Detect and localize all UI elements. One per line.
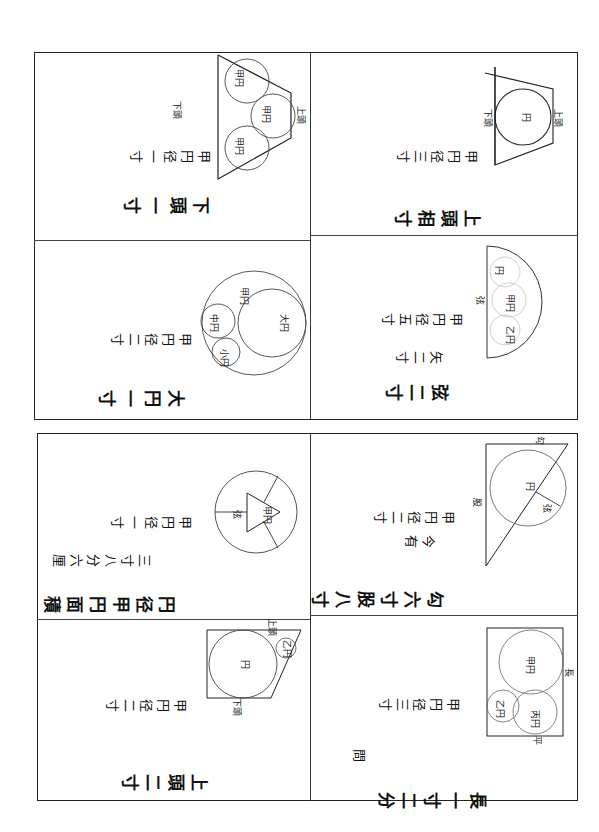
hypotenuse-label: 弦 <box>541 504 554 513</box>
panel-circle-in-trapezoid: 円 下頭 上頭 上頭相寸 甲円径三寸 <box>311 53 577 235</box>
circle-label: 大円 <box>278 314 291 332</box>
circle-label: 円 <box>493 266 506 275</box>
caption: 矢二寸 <box>392 350 443 363</box>
segment-label: 弦 <box>231 510 244 519</box>
caption: 今有 <box>401 535 435 548</box>
diagram-circle-in-right-triangle <box>484 442 572 568</box>
caption: 三寸八分六厘 <box>49 554 151 567</box>
caption: 長一寸二分 <box>372 790 487 807</box>
side-label: 平 <box>531 736 544 745</box>
caption: 甲円径二寸 <box>107 332 192 345</box>
caption: 円径甲円面積 <box>38 595 176 612</box>
circle-label: 乙円 <box>504 326 517 344</box>
caption: 甲円径三寸 <box>375 697 460 710</box>
side-label: 上頭 <box>552 109 565 127</box>
circle-label: 甲円 <box>233 137 246 155</box>
circle-label: 甲円 <box>238 287 251 305</box>
panel-three-circles-in-rectangle: 甲円 乙円 丙円 長 平 長一寸二分 甲円径三寸 問 <box>311 616 577 800</box>
diagram-triangle-in-circle <box>214 468 299 556</box>
panel-circle-in-trapezoid-small-circle: 円 乙円 上頭 下頭 上頭二寸 甲円径二寸 <box>38 620 310 800</box>
caption: 甲円径三寸 <box>393 149 478 162</box>
circle-label: 中円 <box>208 314 221 332</box>
panel-circles-in-semicircle: 円 甲円 乙円 弦 弦二寸 矢二寸 甲円径五寸 <box>311 236 577 419</box>
circle-label: 甲円 <box>233 69 246 87</box>
caption: 下頭一寸 <box>118 196 210 213</box>
diagram-three-circles-in-trapezoid <box>185 53 310 193</box>
circle-label: 円 <box>524 482 537 491</box>
caption: 上頭二寸 <box>116 773 208 790</box>
circle-label: 円 <box>239 660 252 669</box>
caption: 問 <box>349 748 366 761</box>
panel-three-circles-in-trapezoid: 甲円 甲円 甲円 下頭 上頭 下頭一寸 甲円径一寸 <box>35 53 310 239</box>
side-label: 上頭 <box>266 618 279 636</box>
panel-circle-in-right-triangle: 円 弦 勾 股 勾六寸股八寸 今有 甲円径二寸 <box>311 434 577 614</box>
caption: 弦二寸 <box>380 382 449 399</box>
circle-label: 甲円 <box>524 656 537 674</box>
circle-label: 丙円 <box>529 710 542 728</box>
caption: 勾六寸股八寸 <box>306 590 444 607</box>
circle-label: 小円 <box>218 349 231 367</box>
triangle-label: 甲円 <box>261 506 274 524</box>
chord-label: 弦 <box>474 296 487 305</box>
caption: 上頭相寸 <box>389 209 481 226</box>
small-circle-label: 乙円 <box>281 640 294 658</box>
caption: 甲円径五寸 <box>378 312 463 325</box>
side-label: 股 <box>471 498 484 507</box>
panel-three-circles-in-circle: 大円 中円 小円 甲円 大円一寸 甲円径二寸 <box>35 241 310 419</box>
side-label: 下頭 <box>231 698 244 716</box>
side-label: 長 <box>563 668 576 677</box>
circle-label: 甲円 <box>260 105 273 123</box>
side-label: 勾 <box>534 436 547 445</box>
circle-label: 甲円 <box>504 294 517 312</box>
side-label: 下頭 <box>482 109 495 127</box>
caption: 甲円径一寸 <box>126 149 211 162</box>
circle-label: 円 <box>520 113 533 122</box>
side-label: 上頭 <box>295 106 308 124</box>
side-label: 下頭 <box>171 101 184 119</box>
caption: 甲円径一寸 <box>107 515 192 528</box>
caption: 甲円径二寸 <box>102 698 187 711</box>
circle-label: 乙円 <box>494 700 507 718</box>
caption: 甲円径二寸 <box>370 510 455 523</box>
caption: 大円一寸 <box>93 389 185 406</box>
panel-triangle-in-circle: 甲円 弦 円径甲円面積 三寸八分六厘 甲円径一寸 <box>38 434 310 618</box>
diagram-three-circles-in-rectangle <box>485 626 565 738</box>
